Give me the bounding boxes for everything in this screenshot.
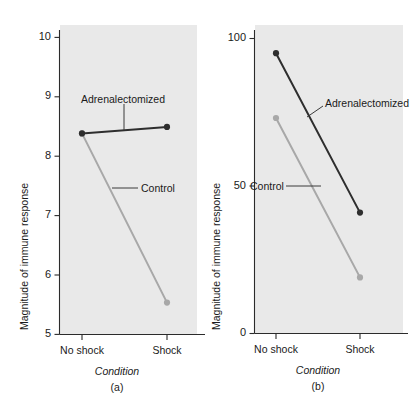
data-point-adrenalectomized-b-no-shock <box>273 50 279 56</box>
series-label-adrenalectomized-b: Adrenalectomized <box>325 98 409 109</box>
series-label-control-a: Control <box>141 183 175 194</box>
data-point-control-b-shock <box>357 274 363 280</box>
plot-vector-layer-a <box>0 0 208 402</box>
y-tick-label-b-100: 100 <box>216 32 246 43</box>
series-label-adrenalectomized-a: Adrenalectomized <box>81 94 165 105</box>
x-tick-label-b-no-shock: No shock <box>246 344 306 355</box>
data-point-adrenalectomized-a-shock <box>164 124 170 130</box>
series-line-control-a <box>82 133 167 302</box>
x-axis-title-b: Condition <box>263 365 373 376</box>
y-axis-title-b: Magnitude of immune response <box>210 183 222 330</box>
series-line-control-b <box>276 118 360 277</box>
chart-panel-a: 10 9 8 7 6 5 Magnitude of immune respons… <box>0 0 208 402</box>
plot-vector-layer-b <box>208 0 416 402</box>
leader-line-adrenalectomized-b <box>307 106 323 117</box>
data-point-control-b-no-shock <box>273 115 279 121</box>
x-axis-title-a: Condition <box>62 366 172 377</box>
y-axis-title-a: Magnitude of immune response <box>18 183 30 330</box>
chart-panel-b: 100 50 0 Magnitude of immune response No… <box>208 0 416 402</box>
data-point-adrenalectomized-b-shock <box>357 210 363 216</box>
x-tick-label-a-no-shock: No shock <box>52 345 112 356</box>
x-tick-label-b-shock: Shock <box>332 344 388 355</box>
panel-tag-a: (a) <box>62 382 172 393</box>
data-point-control-a-shock <box>164 300 170 306</box>
y-tick-label-a-10: 10 <box>26 31 51 42</box>
data-point-adrenalectomized-a-no-shock <box>79 130 85 136</box>
panel-tag-b: (b) <box>263 381 373 392</box>
x-tick-label-a-shock: Shock <box>139 345 195 356</box>
y-tick-label-a-9: 9 <box>26 90 51 101</box>
series-line-adrenalectomized-b <box>276 53 360 212</box>
series-label-control-b: Control <box>250 181 284 192</box>
y-tick-label-a-8: 8 <box>26 150 51 161</box>
figure-root: 10 9 8 7 6 5 Magnitude of immune respons… <box>0 0 417 402</box>
